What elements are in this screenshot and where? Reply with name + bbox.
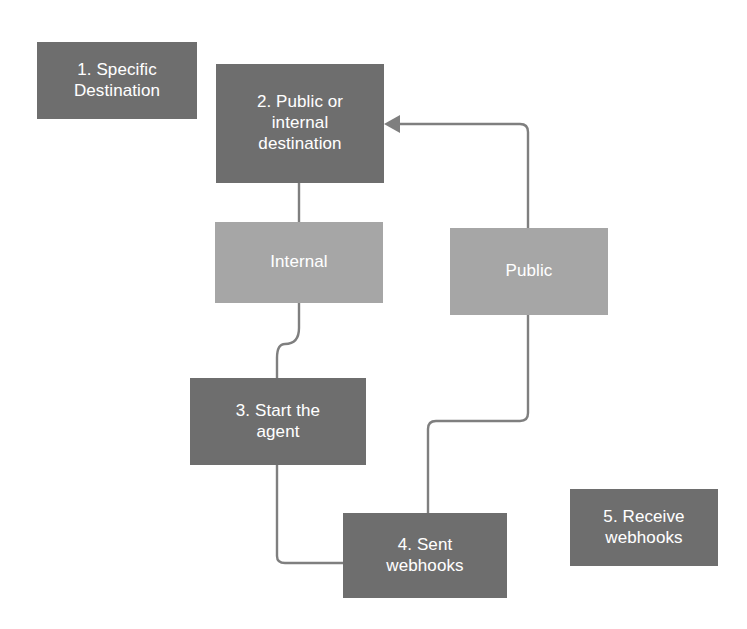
node-public-label: Public — [506, 261, 553, 282]
node-specific-destination[interactable]: 1. Specific Destination — [37, 42, 197, 119]
connector-node3-to-node4 — [277, 465, 343, 563]
connector-public-to-node2 — [397, 124, 528, 228]
connector-internal-to-node3 — [277, 303, 299, 378]
node-receive-webhooks[interactable]: 5. Receive webhooks — [570, 489, 718, 566]
node-public-or-internal-destination[interactable]: 2. Public or internal destination — [216, 64, 384, 183]
node-receive-webhooks-label: 5. Receive webhooks — [603, 507, 684, 548]
node-public-or-internal-destination-label: 2. Public or internal destination — [257, 92, 343, 154]
node-start-the-agent-label: 3. Start the agent — [236, 401, 320, 442]
node-sent-webhooks[interactable]: 4. Sent webhooks — [343, 513, 507, 598]
node-specific-destination-label: 1. Specific Destination — [74, 60, 160, 101]
connector-public-to-node4 — [428, 315, 528, 513]
arrowhead-icon — [384, 115, 400, 133]
node-sent-webhooks-label: 4. Sent webhooks — [386, 535, 463, 576]
flowchart-canvas: 1. Specific Destination 2. Public or int… — [0, 0, 747, 629]
node-start-the-agent[interactable]: 3. Start the agent — [190, 378, 366, 465]
node-public[interactable]: Public — [450, 228, 608, 315]
node-internal-label: Internal — [270, 252, 328, 273]
node-internal[interactable]: Internal — [215, 222, 383, 303]
